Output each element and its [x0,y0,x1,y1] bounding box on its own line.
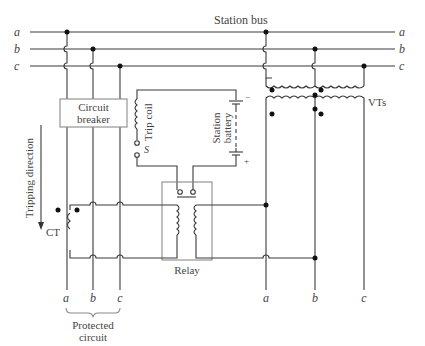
vt-polarity-dot-1 [270,88,275,93]
bus-label-c-left: c [14,59,20,73]
battery-minus-label: − [245,92,250,102]
vt-junction-b [313,47,318,52]
ct-polarity-dot-2 [75,208,80,213]
station-battery-label-2: battery [221,112,233,143]
protected-circuit-label-2: circuit [79,331,107,343]
tripping-direction-label: Tripping direction [23,138,35,218]
bus-label-b-right: b [399,42,405,56]
vts-label: VTs [368,96,386,108]
protected-circuit-brace [66,308,120,317]
trip-coil-label: Trip coil [142,103,154,141]
ct-label: CT [46,226,60,238]
vt-polarity-dot-2 [319,88,324,93]
vt1-primary [266,78,315,88]
protected-circuit-label-1: Protected [72,319,114,331]
vt-label-a: a [263,291,269,305]
junction-a [65,30,70,35]
trip-coil-winding [135,99,137,129]
station-bus [30,32,395,66]
bus-label-a-left: a [14,25,20,39]
junction-b [91,47,96,52]
vt-conductors [263,32,364,290]
protected-label-b: b [90,291,96,305]
vt-neutral-dot-bottom [313,107,318,112]
vt-label-b: b [312,291,318,305]
station-bus-title: Station bus [214,13,268,27]
vt-polarity-dot-4 [319,112,324,117]
ct-polarity-dot-1 [56,208,61,213]
arrow-head-icon [38,222,44,230]
relay-contact-right [191,190,196,195]
switch-contact-top [135,141,140,146]
vt2-secondary [315,96,364,290]
circuit-breaker-label-1: Circuit [78,101,109,113]
relay-box [162,182,212,260]
switch-label: S [144,144,149,155]
relay-coil-left [177,205,179,235]
protection-schematic: Station bus a b c a b c Circuit breaker … [0,0,425,346]
junction-c [118,64,123,69]
bus-label-c-right: c [399,59,405,73]
vt-junction-c [362,64,367,69]
vt-neutral-dot-top [313,93,318,98]
bus-label-a-right: a [399,25,405,39]
battery-plus-label: + [244,156,249,166]
vt2-primary [315,78,364,88]
circuit-breaker-label-2: breaker [77,113,110,125]
relay-label: Relay [174,264,200,276]
protected-circuit-conductors [64,32,120,290]
protected-label-c: c [117,291,123,305]
ct-winding [68,213,71,229]
relay-vt-junction-a [264,203,269,208]
vt-label-c: c [361,291,367,305]
ct-circuit [68,202,316,258]
relay-vt-junction-b [313,256,318,261]
relay-coil-right [194,205,196,235]
vt-polarity-dot-3 [270,112,275,117]
vt-junction-a [264,30,269,35]
bus-label-b-left: b [14,42,20,56]
switch-contact-bottom [135,153,140,158]
protected-label-a: a [63,291,69,305]
relay-contact-left [178,190,183,195]
vt1-secondary [266,96,315,290]
